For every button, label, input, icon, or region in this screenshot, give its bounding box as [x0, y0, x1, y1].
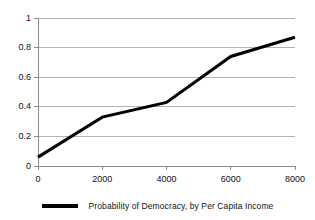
legend-line-swatch-icon [42, 204, 78, 208]
chart-legend: Probability of Democracy, by Per Capita … [0, 196, 315, 216]
x-axis-tick-marks [38, 166, 295, 170]
y-tick-label-0: 0 [2, 162, 31, 171]
data-series-group [38, 37, 295, 157]
gridlines [38, 18, 295, 166]
plot-area [0, 0, 315, 220]
axis-lines [38, 18, 295, 166]
y-tick-label-0.6: 0.6 [2, 73, 31, 82]
x-tick-label-0: 0 [13, 175, 63, 184]
y-axis-tick-marks [34, 18, 38, 166]
y-tick-label-0.4: 0.4 [2, 102, 31, 111]
series-line-probability-of-democracy [38, 37, 295, 157]
x-tick-label-8000: 8000 [270, 175, 315, 184]
x-tick-label-2000: 2000 [77, 175, 127, 184]
y-tick-label-0.8: 0.8 [2, 43, 31, 52]
x-tick-label-4000: 4000 [142, 175, 192, 184]
y-tick-label-0.2: 0.2 [2, 132, 31, 141]
legend-entry-label: Probability of Democracy, by Per Capita … [89, 201, 274, 211]
x-tick-label-6000: 6000 [206, 175, 256, 184]
y-tick-label-1: 1 [2, 14, 31, 23]
line-chart: 00.20.40.60.81 02000400060008000 Probabi… [0, 0, 315, 220]
